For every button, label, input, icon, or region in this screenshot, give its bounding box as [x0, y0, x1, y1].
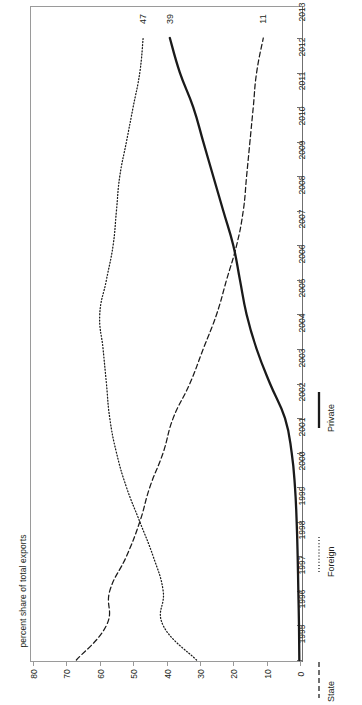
series-lines — [0, 0, 362, 705]
line-chart: percent share of total exports 807060504… — [0, 0, 362, 705]
legend-key-state — [312, 660, 326, 700]
series-line-state — [76, 38, 263, 660]
end-label-private: 39 — [165, 9, 175, 29]
legend-label-foreign: Foreign — [326, 546, 336, 577]
end-label-foreign: 47 — [138, 9, 148, 29]
legend-label-private: Private — [326, 404, 336, 432]
legend-key-foreign — [312, 535, 326, 575]
series-line-foreign — [100, 38, 197, 660]
series-line-private — [170, 38, 299, 660]
legend-label-state: State — [326, 681, 336, 702]
legend-key-private — [312, 390, 326, 430]
end-label-state: 11 — [258, 9, 268, 29]
